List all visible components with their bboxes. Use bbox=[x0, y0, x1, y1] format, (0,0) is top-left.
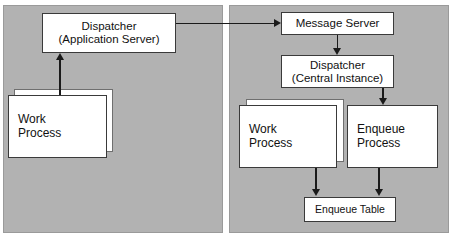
enqueue-process-node[interactable]: Enqueue Process bbox=[347, 105, 438, 168]
work-process-left-line1: Work bbox=[18, 113, 46, 126]
work-process-left-node[interactable]: Work Process bbox=[8, 95, 107, 158]
work-process-right-line1: Work bbox=[249, 123, 277, 136]
message-server-node[interactable]: Message Server bbox=[281, 12, 394, 35]
dispatcher-central-to-enqueue-process-arrow-head bbox=[379, 98, 387, 105]
enqueue-process-to-enqueue-table-arrow-head bbox=[375, 189, 383, 196]
enqueue-process-line1: Enqueue bbox=[357, 123, 405, 136]
enqueue-table-label: Enqueue Table bbox=[315, 204, 385, 216]
enqueue-table-node[interactable]: Enqueue Table bbox=[304, 197, 396, 222]
work-process-left-line2: Process bbox=[18, 127, 61, 140]
dispatcher-application-server-node[interactable]: Dispatcher (Application Server) bbox=[42, 13, 176, 53]
work-process-right-line2: Process bbox=[249, 137, 292, 150]
message-server-to-dispatcher-central-arrow-head bbox=[333, 48, 341, 55]
work-process-to-dispatcher-arrow-head bbox=[56, 53, 64, 60]
work-process-to-enqueue-table-arrow-head bbox=[312, 189, 320, 196]
dispatcher-app-to-message-server-arrow-line bbox=[176, 23, 274, 25]
dispatcher-central-instance-node[interactable]: Dispatcher (Central Instance) bbox=[281, 55, 394, 88]
message-server-to-dispatcher-central-arrow-line bbox=[337, 35, 339, 49]
dispatcher-application-server-line1: Dispatcher bbox=[82, 20, 137, 33]
work-process-to-enqueue-table-arrow-line bbox=[315, 168, 317, 190]
enqueue-process-to-enqueue-table-arrow-line bbox=[378, 168, 380, 190]
work-process-to-dispatcher-arrow-line bbox=[59, 59, 61, 95]
diagram-canvas: Dispatcher (Application Server) Work Pro… bbox=[0, 0, 451, 241]
dispatcher-application-server-line2: (Application Server) bbox=[59, 33, 160, 46]
dispatcher-app-to-message-server-arrow-head bbox=[274, 19, 281, 27]
dispatcher-central-instance-line2: (Central Instance) bbox=[292, 72, 383, 85]
message-server-label: Message Server bbox=[296, 17, 380, 30]
work-process-right-node[interactable]: Work Process bbox=[239, 105, 337, 168]
dispatcher-central-instance-line1: Dispatcher bbox=[310, 59, 365, 72]
enqueue-process-line2: Process bbox=[357, 137, 400, 150]
